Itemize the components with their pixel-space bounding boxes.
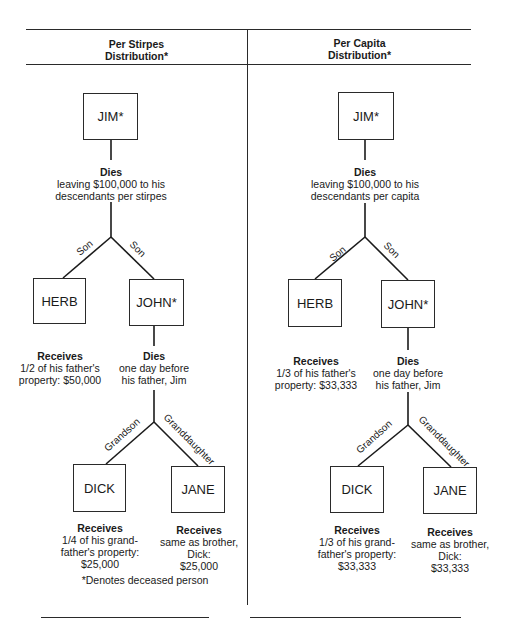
- note-line: descendants per capita: [295, 190, 435, 202]
- herb-note: Receives 1/3 of his father's property: $…: [266, 355, 366, 391]
- person-name: JIM*: [98, 109, 124, 124]
- person-box-herb: HERB: [288, 279, 342, 327]
- note-line: $33,333: [404, 562, 496, 574]
- note-title: Dies: [41, 166, 181, 178]
- note-line: 1/2 of his father's: [10, 362, 110, 374]
- person-box-jim: JIM*: [83, 93, 138, 140]
- note-line: descendants per stirpes: [41, 190, 181, 202]
- note-title: Receives: [153, 524, 245, 536]
- note-line: $25,000: [58, 558, 142, 570]
- note-line: father's property:: [58, 546, 142, 558]
- note-line: his father, Jim: [109, 374, 199, 386]
- note-line: same as brother,: [153, 536, 245, 548]
- jane-note: Receives same as brother, Dick: $33,333: [404, 526, 496, 574]
- person-name: DICK: [341, 482, 372, 497]
- note-line: his father, Jim: [363, 379, 453, 391]
- jane-note: Receives same as brother, Dick: $25,000: [153, 524, 245, 572]
- note-line: leaving $100,000 to his: [41, 178, 181, 190]
- person-name: HERB: [41, 294, 77, 309]
- root-event-note: Dies leaving $100,000 to his descendants…: [295, 166, 435, 202]
- edge-label-son: Son: [327, 244, 348, 264]
- note-line: same as brother,: [404, 538, 496, 550]
- person-name: JOHN*: [136, 295, 176, 310]
- note-line: $33,333: [315, 560, 399, 572]
- note-line: property: $33,333: [266, 379, 366, 391]
- herb-note: Receives 1/2 of his father's property: $…: [10, 350, 110, 386]
- person-name: JANE: [181, 482, 214, 497]
- footnote: *Denotes deceased person: [70, 574, 220, 586]
- note-line: Dick:: [153, 548, 245, 560]
- person-box-jim: JIM*: [338, 92, 394, 140]
- edge-label-son: Son: [74, 238, 95, 258]
- john-note: Dies one day before his father, Jim: [109, 350, 199, 386]
- person-name: JANE: [433, 483, 466, 498]
- root-event-note: Dies leaving $100,000 to his descendants…: [41, 166, 181, 202]
- person-name: JIM*: [353, 109, 379, 124]
- note-line: Dick:: [404, 550, 496, 562]
- edge-label-grandson: Grandson: [354, 418, 394, 456]
- note-title: Receives: [315, 524, 399, 536]
- note-line: leaving $100,000 to his: [295, 178, 435, 190]
- edge-label-granddaughter: Granddaughter: [162, 412, 218, 468]
- person-box-dick: DICK: [73, 464, 126, 512]
- note-line: one day before: [363, 367, 453, 379]
- person-box-jane: JANE: [423, 467, 477, 514]
- note-line: $25,000: [153, 560, 245, 572]
- edge-label-grandson: Grandson: [102, 416, 142, 454]
- note-title: Receives: [266, 355, 366, 367]
- dick-note: Receives 1/4 of his grand- father's prop…: [58, 522, 142, 570]
- person-name: JOHN*: [388, 297, 428, 312]
- person-box-john: JOHN*: [381, 280, 435, 328]
- person-box-dick: DICK: [330, 466, 384, 513]
- person-box-jane: JANE: [171, 466, 225, 513]
- person-name: DICK: [84, 481, 115, 496]
- note-line: 1/4 of his grand-: [58, 534, 142, 546]
- dick-note: Receives 1/3 of his grand- father's prop…: [315, 524, 399, 572]
- john-note: Dies one day before his father, Jim: [363, 355, 453, 391]
- note-line: 1/3 of his father's: [266, 367, 366, 379]
- person-box-herb: HERB: [33, 278, 86, 324]
- person-box-john: JOHN*: [129, 279, 184, 326]
- note-title: Receives: [58, 522, 142, 534]
- note-line: one day before: [109, 362, 199, 374]
- note-line: 1/3 of his grand-: [315, 536, 399, 548]
- person-name: HERB: [297, 296, 333, 311]
- note-title: Receives: [10, 350, 110, 362]
- note-line: property: $50,000: [10, 374, 110, 386]
- note-title: Receives: [404, 526, 496, 538]
- note-title: Dies: [363, 355, 453, 367]
- note-line: father's property:: [315, 548, 399, 560]
- note-title: Dies: [109, 350, 199, 362]
- note-title: Dies: [295, 166, 435, 178]
